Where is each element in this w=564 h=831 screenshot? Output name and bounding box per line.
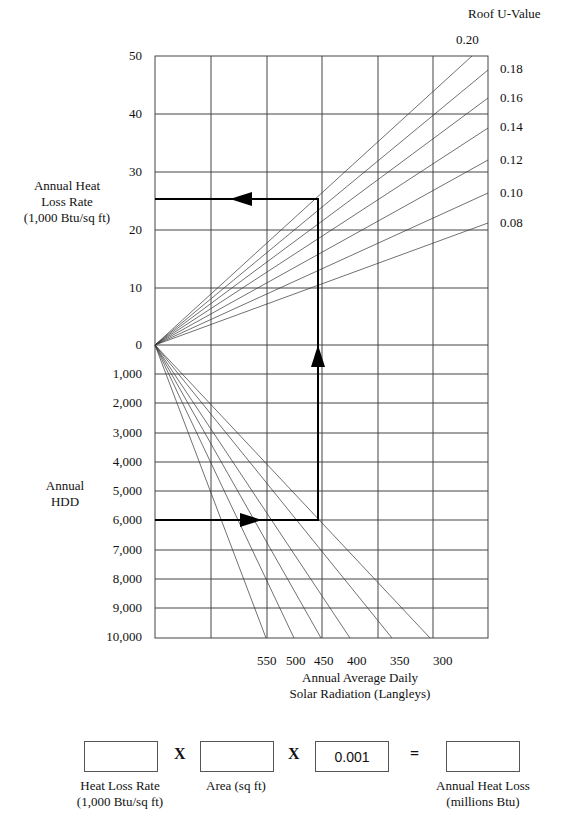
lower-axis-title: Annual HDD xyxy=(40,478,90,510)
tick-label: 9,000 xyxy=(92,600,142,616)
heat-loss-rate-label: Heat Loss Rate (1,000 Btu/sq ft) xyxy=(60,778,180,810)
u-value-label: 0.12 xyxy=(500,152,523,168)
tick-label: 40 xyxy=(110,106,142,122)
tick-label: 8,000 xyxy=(92,571,142,587)
tick-label: 1,000 xyxy=(92,366,142,382)
conversion-factor-box: 0.001 xyxy=(315,741,389,772)
tick-label: 20 xyxy=(110,222,142,238)
multiply-operator: X xyxy=(288,745,300,763)
arrow-left-icon xyxy=(230,192,252,206)
tick-label: 7,000 xyxy=(92,542,142,558)
u-value-line-0.20 xyxy=(155,56,472,345)
upper-axis-title: Annual Heat Loss Rate (1,000 Btu/sq ft) xyxy=(12,178,122,226)
tick-label: 10 xyxy=(110,280,142,296)
multiply-operator: X xyxy=(174,745,186,763)
area-input[interactable] xyxy=(200,741,274,772)
area-label: Area (sq ft) xyxy=(186,778,286,794)
u-value-label: 0.16 xyxy=(500,90,523,106)
tick-label: 3,000 xyxy=(92,425,142,441)
solar-tick-label: 400 xyxy=(347,653,367,669)
solar-tick-label: 300 xyxy=(433,653,453,669)
tick-label: 4,000 xyxy=(92,454,142,470)
solar-tick-label: 450 xyxy=(314,653,334,669)
tick-label: 6,000 xyxy=(92,512,142,528)
tick-label: 2,000 xyxy=(92,395,142,411)
x-axis-title: Annual Average Daily Solar Radiation (La… xyxy=(260,670,460,702)
solar-tick-label: 350 xyxy=(390,653,410,669)
tick-label: 30 xyxy=(110,164,142,180)
tick-label: 5,000 xyxy=(92,483,142,499)
u-value-label: 0.14 xyxy=(500,119,523,135)
nomograph-chart xyxy=(0,0,564,831)
example-path xyxy=(155,199,318,520)
tick-label: 10,000 xyxy=(92,629,142,645)
u-value-label: 0.20 xyxy=(456,32,479,48)
tick-label: 0 xyxy=(110,337,142,353)
annual-heat-loss-label: Annual Heat Loss (millions Btu) xyxy=(420,778,546,810)
u-value-label: 0.18 xyxy=(500,61,523,77)
u-value-label: 0.10 xyxy=(500,185,523,201)
arrow-up-icon xyxy=(311,345,325,367)
annual-heat-loss-output[interactable] xyxy=(446,741,520,772)
solar-tick-label: 550 xyxy=(257,653,277,669)
legend-title: Roof U-Value xyxy=(468,6,541,22)
tick-label: 50 xyxy=(110,48,142,64)
path-arrows xyxy=(230,192,325,527)
u-value-label: 0.08 xyxy=(500,215,523,231)
equals-operator: = xyxy=(410,745,419,763)
solar-tick-label: 500 xyxy=(286,653,306,669)
heat-loss-rate-input[interactable] xyxy=(84,741,158,772)
